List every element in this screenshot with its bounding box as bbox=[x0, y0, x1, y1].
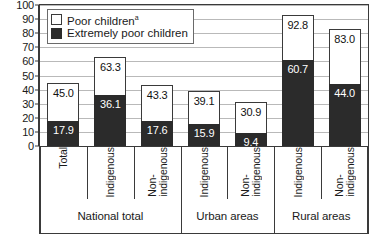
y-tick-label-40: 40 bbox=[22, 84, 34, 95]
category-cell: Total bbox=[40, 147, 87, 199]
category-axis: TotalIndigenousNon- indigenousIndigenous… bbox=[40, 147, 368, 199]
y-axis: 0102030405060708090100 bbox=[0, 5, 39, 146]
y-tick-label-0: 0 bbox=[28, 141, 34, 152]
category-cell: Non- indigenous bbox=[227, 147, 274, 199]
bar-value-label-extremely-poor-children: 60.7 bbox=[282, 64, 314, 75]
category-cell: Indigenous bbox=[181, 147, 228, 199]
category-band-top-rule bbox=[40, 146, 368, 147]
band-edge-separator bbox=[367, 147, 368, 233]
bar-value-label-extremely-poor-children: 44.0 bbox=[329, 88, 361, 99]
category-label: Indigenous bbox=[105, 147, 116, 198]
y-tick-label-90: 90 bbox=[22, 14, 34, 25]
legend-label-poor-children-text: Poor children bbox=[67, 14, 135, 26]
bar-value-label-poor-children: 30.9 bbox=[235, 107, 267, 118]
category-cell: Indigenous bbox=[87, 147, 134, 199]
legend-item-extremely-poor-children: Extremely poor children bbox=[51, 26, 188, 40]
category-cell: Indigenous bbox=[274, 147, 321, 199]
y-tick-label-20: 20 bbox=[22, 112, 34, 123]
legend-swatch-extremely-poor-children bbox=[51, 28, 62, 39]
category-label: Non- indigenous bbox=[334, 147, 356, 198]
bar-value-label-poor-children: 45.0 bbox=[47, 88, 79, 99]
legend-swatch-poor-children bbox=[51, 14, 62, 25]
band-edge-separator bbox=[40, 147, 41, 233]
y-tick-label-80: 80 bbox=[22, 28, 34, 39]
category-cell: Non- indigenous bbox=[321, 147, 368, 199]
group-label: Rural areas bbox=[274, 199, 368, 233]
category-cell: Non- indigenous bbox=[134, 147, 181, 199]
bar-value-label-poor-children: 63.3 bbox=[94, 62, 126, 73]
category-label: Non- indigenous bbox=[147, 147, 169, 198]
legend-label-poor-children-superscript: a bbox=[135, 14, 139, 21]
legend-label-extremely-poor-children: Extremely poor children bbox=[67, 27, 188, 39]
chart-container: 0102030405060708090100 45.017.963.336.14… bbox=[0, 0, 373, 244]
legend-label-poor-children: Poor childrena bbox=[67, 12, 139, 27]
y-tick-label-10: 10 bbox=[22, 126, 34, 137]
bar-value-label-extremely-poor-children: 15.9 bbox=[188, 128, 220, 139]
bar-value-label-poor-children: 92.8 bbox=[282, 20, 314, 31]
y-tick-label-60: 60 bbox=[22, 56, 34, 67]
bar-value-label-extremely-poor-children: 17.6 bbox=[141, 125, 173, 136]
bar-value-label-poor-children: 39.1 bbox=[188, 96, 220, 107]
bar-group[interactable]: 83.044.0 bbox=[329, 5, 361, 146]
y-tick-label-70: 70 bbox=[22, 42, 34, 53]
group-axis: National totalUrban areasRural areas bbox=[40, 199, 368, 233]
bar-value-label-extremely-poor-children: 36.1 bbox=[94, 99, 126, 110]
bar-value-label-extremely-poor-children: 17.9 bbox=[47, 125, 79, 136]
group-label: National total bbox=[40, 199, 181, 233]
bar-value-label-poor-children: 43.3 bbox=[141, 90, 173, 101]
category-label: Indigenous bbox=[199, 147, 210, 198]
group-label: Urban areas bbox=[181, 199, 275, 233]
group-separator bbox=[274, 147, 275, 233]
bar-value-label-poor-children: 83.0 bbox=[329, 34, 361, 45]
y-tick-label-50: 50 bbox=[22, 70, 34, 81]
bar-group[interactable]: 30.99.4 bbox=[235, 5, 267, 146]
y-axis-line bbox=[38, 5, 39, 146]
y-tick-label-30: 30 bbox=[22, 98, 34, 109]
category-label: Indigenous bbox=[293, 147, 304, 198]
bar-group[interactable]: 92.860.7 bbox=[282, 5, 314, 146]
y-tick-label-100: 100 bbox=[16, 0, 34, 11]
legend-item-poor-children: Poor childrena bbox=[51, 12, 188, 26]
category-label: Total bbox=[58, 147, 69, 170]
category-label: Non- indigenous bbox=[240, 147, 262, 198]
chart-legend: Poor childrena Extremely poor children bbox=[47, 9, 194, 44]
group-separator bbox=[181, 147, 182, 233]
